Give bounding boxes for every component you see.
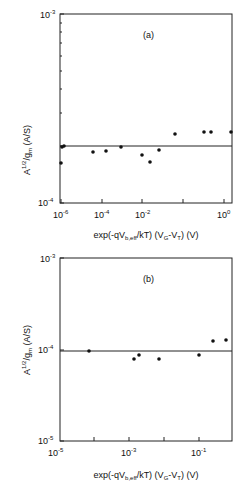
ylabel-a: A1/2/gm (A/S) (21, 125, 33, 175)
xlabel-b: exp(-qVb,eff/kT) (VG-VT) (V) (94, 470, 199, 481)
xlabel-a: exp(-qVb,eff/kT) (VG-VT) (V) (94, 230, 199, 241)
ylabel-b: A1/2/gm (A/S) (21, 325, 33, 375)
xtick-a-1e0: 100 (217, 209, 231, 220)
xtick-b-1e-5: 10-5 (48, 447, 64, 458)
xtick-a-1e-4: 10-4 (94, 209, 110, 220)
panel-b-frame (60, 258, 232, 441)
xtick-b-1e-3: 10-3 (121, 447, 137, 458)
figure: 10-3 10-4 10-6 10-4 10-2 100 (a) A1/2/gm… (0, 0, 243, 491)
panel-b-label: (b) (143, 274, 154, 284)
panel-a: 10-3 10-4 10-6 10-4 10-2 100 (a) A1/2/gm… (21, 9, 233, 241)
ytick-a-1e-3: 10-3 (40, 9, 56, 20)
panel-b: 10-3 10-4 10-5 10-5 10-3 10-1 (b) A1/2/g… (21, 253, 232, 481)
ytick-b-1e-3: 10-3 (40, 253, 56, 264)
panel-a-label: (a) (143, 30, 154, 40)
points-a (59, 130, 233, 165)
ytick-b-1e-5: 10-5 (38, 435, 54, 446)
ytick-a-1e-4: 10-4 (38, 197, 54, 208)
xtick-a-1e-6: 10-6 (53, 209, 69, 220)
xtick-a-1e-2: 10-2 (135, 209, 151, 220)
points-b (87, 338, 228, 361)
ytick-b-1e-4: 10-4 (38, 344, 54, 355)
xtick-b-1e-1: 10-1 (191, 447, 207, 458)
panel-a-frame (60, 14, 232, 203)
